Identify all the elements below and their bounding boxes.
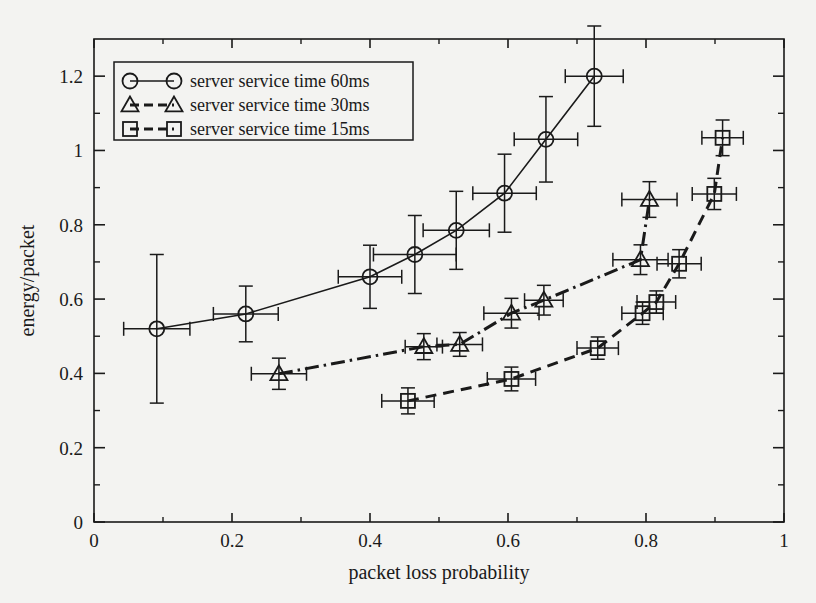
- y-tick-label: 1: [74, 140, 84, 161]
- x-tick-label: 0: [89, 530, 99, 551]
- x-tick-label: 1: [779, 530, 789, 551]
- chart-background: [0, 0, 816, 603]
- chart-figure: server service time 60msserver service t…: [0, 0, 816, 603]
- legend-label: server service time 30ms: [190, 95, 369, 115]
- y-tick-label: 0.4: [59, 363, 83, 384]
- energy-per-packet-line-chart: server service time 60msserver service t…: [0, 0, 816, 603]
- legend-label: server service time 60ms: [190, 71, 369, 91]
- y-tick-label: 0: [74, 512, 84, 533]
- y-tick-label: 1.2: [59, 66, 83, 87]
- x-tick-label: 0.6: [496, 530, 520, 551]
- y-tick-label: 0.6: [59, 289, 83, 310]
- x-axis-title: packet loss probability: [348, 561, 529, 584]
- x-tick-label: 0.4: [358, 530, 382, 551]
- x-tick-label: 0.2: [220, 530, 244, 551]
- x-tick-label: 0.8: [634, 530, 658, 551]
- y-axis-title: energy/packet: [16, 224, 39, 336]
- legend-label: server service time 15ms: [190, 119, 369, 139]
- y-tick-label: 0.2: [59, 438, 83, 459]
- y-tick-label: 0.8: [59, 215, 83, 236]
